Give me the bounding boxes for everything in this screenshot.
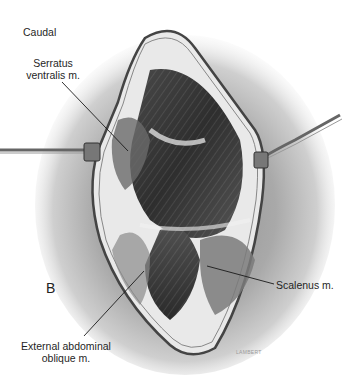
label-line: oblique m. (18, 352, 114, 364)
label-external-abdominal-oblique: External abdominal oblique m. (18, 340, 114, 364)
label-line: Serratus (18, 57, 88, 69)
label-scalenus: Scalenus m. (276, 279, 334, 291)
artist-signature: LAMBERT (236, 349, 262, 355)
label-serratus-ventralis: Serratus ventralis m. (18, 57, 88, 81)
label-line: ventralis m. (18, 69, 88, 81)
panel-letter: B (46, 280, 55, 296)
orientation-label-caudal: Caudal (23, 26, 56, 38)
label-line: External abdominal (18, 340, 114, 352)
